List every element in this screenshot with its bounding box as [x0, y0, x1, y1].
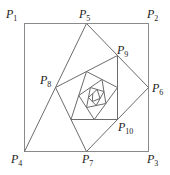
label-p8: P8	[39, 73, 51, 89]
label-p10: P10	[117, 120, 133, 136]
label-p6: P6	[151, 81, 163, 97]
label-p9: P9	[116, 43, 128, 59]
label-p5: P5	[78, 7, 90, 23]
label-p1: P1	[5, 7, 17, 23]
label-p2: P2	[146, 7, 158, 23]
label-p3: P3	[146, 152, 158, 168]
label-p7: P7	[81, 152, 93, 168]
label-p4: P4	[10, 152, 22, 168]
spiral-diagram: P1P5P2P9P8P6P10P4P7P3	[0, 0, 170, 175]
